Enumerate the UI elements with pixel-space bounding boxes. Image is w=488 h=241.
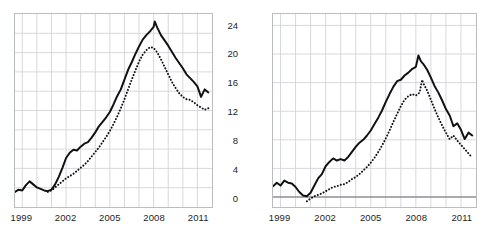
right-x-tick-label: 1999 <box>269 212 291 223</box>
right-y-tick-label: 24 <box>227 19 238 30</box>
left-plot-frame <box>14 13 213 208</box>
right-y-tick-label: 20 <box>227 48 238 59</box>
left-x-axis-labels: 19992002200520082011 <box>14 212 213 226</box>
right-x-tick-label: 2008 <box>405 212 427 223</box>
figure-root: 19992002200520082011 04812162024 1999200… <box>0 0 488 241</box>
right-x-axis-labels: 19992002200520082011 <box>272 212 477 226</box>
left-x-tick-label: 2008 <box>143 212 165 223</box>
right-x-tick-label: 2005 <box>360 212 382 223</box>
right-dotted-series <box>307 80 472 202</box>
right-x-tick-label: 2011 <box>451 212 472 223</box>
right-solid-series <box>273 55 472 196</box>
right-y-tick-label: 8 <box>233 135 238 146</box>
left-solid-series <box>15 22 208 192</box>
left-x-tick-label: 2011 <box>188 212 209 223</box>
right-y-axis-labels: 04812162024 <box>198 13 238 208</box>
left-x-tick-label: 1999 <box>11 212 33 223</box>
left-plot-canvas <box>15 14 212 207</box>
right-x-tick-label: 2002 <box>314 212 336 223</box>
right-plot-canvas <box>273 14 476 207</box>
right-y-tick-label: 0 <box>233 192 238 203</box>
right-y-tick-label: 12 <box>227 106 238 117</box>
right-plot-frame <box>272 13 477 208</box>
left-x-tick-label: 2002 <box>55 212 77 223</box>
right-panel: 04812162024 19992002200520082011 <box>244 0 488 241</box>
left-x-tick-label: 2005 <box>99 212 121 223</box>
right-y-tick-label: 16 <box>227 77 238 88</box>
right-y-tick-label: 4 <box>233 164 238 175</box>
